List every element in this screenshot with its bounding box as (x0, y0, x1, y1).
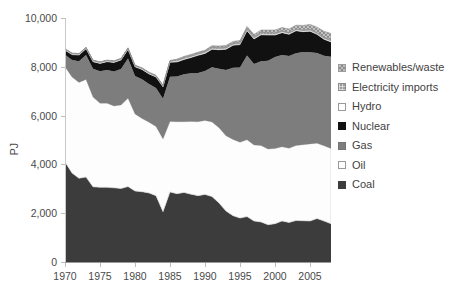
x-axis-tick-label: 1990 (193, 270, 216, 282)
legend-item-label: Renewables/waste (352, 62, 444, 73)
coal-swatch (338, 181, 346, 189)
nuclear-swatch (338, 122, 346, 130)
legend-item-label: Hydro (352, 101, 381, 112)
x-axis-tick-mark (135, 263, 136, 267)
legend-item-gas[interactable]: Gas (338, 136, 464, 156)
x-axis-tick-label: 1970 (53, 270, 76, 282)
legend-item-electricity-imports[interactable]: Electricity imports (338, 78, 464, 98)
x-axis-tick-label: 2005 (298, 270, 321, 282)
legend-item-label: Electricity imports (352, 82, 438, 93)
x-axis-tick-mark (275, 263, 276, 267)
legend-item-renewables-waste[interactable]: Renewables/waste (338, 58, 464, 78)
hydro-swatch (338, 103, 346, 111)
electricity-imports-swatch (338, 83, 346, 91)
legend-item-label: Oil (352, 160, 365, 171)
gas-swatch (338, 142, 346, 150)
x-axis-tick-mark (310, 263, 311, 267)
renewables-swatch (338, 64, 346, 72)
oil-swatch (338, 161, 346, 169)
x-axis-tick-label: 1980 (123, 270, 146, 282)
x-axis-tick-label: 1975 (88, 270, 111, 282)
x-axis-tick-mark (205, 263, 206, 267)
x-axis-tick-mark (65, 263, 66, 267)
x-axis-tick-label: 1995 (228, 270, 251, 282)
x-axis-tick-mark (170, 263, 171, 267)
legend-item-label: Nuclear (352, 121, 390, 132)
stacked-area-chart: 02,0004,0006,0008,00010,000 PJ 197019751… (0, 0, 466, 304)
legend-item-label: Gas (352, 140, 372, 151)
legend-item-coal[interactable]: Coal (338, 175, 464, 195)
x-axis-tick-label: 2000 (263, 270, 286, 282)
x-axis-tick-mark (100, 263, 101, 267)
legend-item-oil[interactable]: Oil (338, 156, 464, 176)
x-axis-tick-mark (240, 263, 241, 267)
legend-item-nuclear[interactable]: Nuclear (338, 117, 464, 137)
chart-legend: Renewables/wasteElectricity importsHydro… (338, 58, 464, 195)
legend-item-hydro[interactable]: Hydro (338, 97, 464, 117)
x-axis-tick-label: 1985 (158, 270, 181, 282)
legend-item-label: Coal (352, 179, 375, 190)
